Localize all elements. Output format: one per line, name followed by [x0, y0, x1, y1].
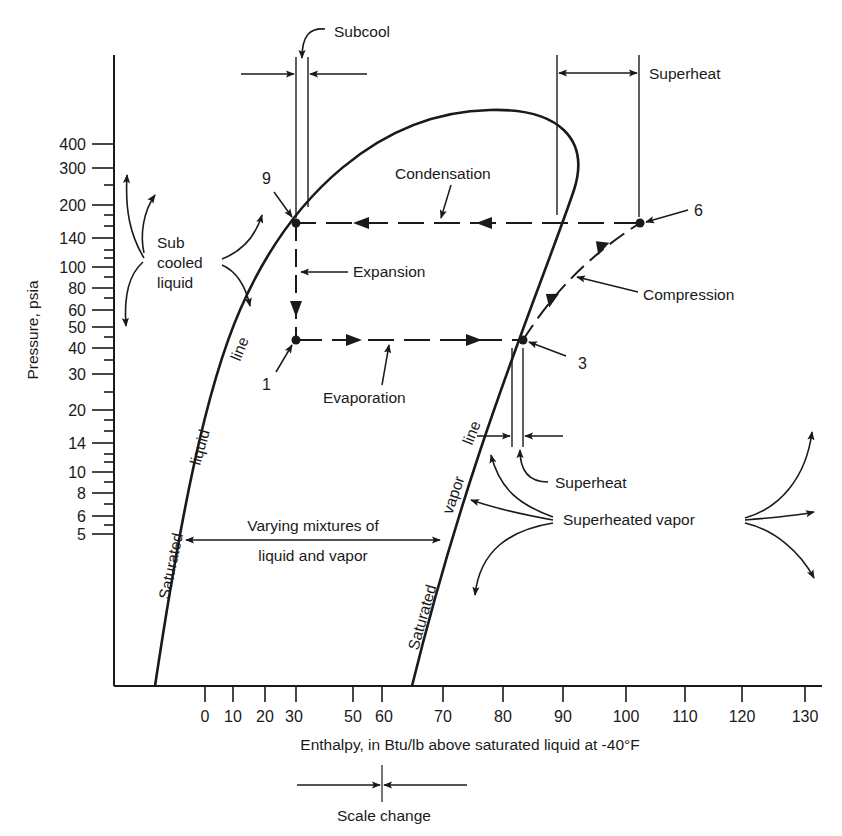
mixture-label-line2: liquid and vapor [258, 547, 367, 564]
y-tick: 6 [77, 508, 86, 525]
superheated-vapor-annotation: Superheated vapor [471, 432, 814, 595]
x-tick: 130 [792, 708, 819, 725]
x-tick: 110 [672, 708, 698, 725]
mixture-annotation: Varying mixtures of liquid and vapor [186, 517, 440, 564]
y-axis-tick-labels: 400 300 200 140 100 80 60 50 40 30 20 14… [59, 136, 86, 543]
y-tick: 20 [68, 402, 86, 419]
scale-change-marker: Scale change [297, 765, 467, 824]
y-tick: 14 [68, 435, 86, 452]
subcool-label: Subcool [334, 23, 390, 40]
y-tick: 300 [59, 160, 86, 177]
y-tick: 5 [77, 526, 86, 543]
superheat-bottom-label: Superheat [555, 474, 627, 491]
x-tick: 100 [613, 708, 640, 725]
point-1-marker [292, 336, 301, 345]
point-6-marker [636, 219, 645, 228]
x-tick: 0 [201, 708, 210, 725]
vapor-label: vapor [439, 474, 468, 516]
subcool-annotation: Subcool [241, 23, 390, 218]
y-tick: 140 [59, 230, 86, 247]
x-tick: 10 [224, 708, 242, 725]
superheat-top-label: Superheat [649, 65, 721, 82]
point-6-label: 6 [694, 202, 703, 219]
line-label: line [227, 334, 252, 363]
process-labels: Condensation Expansion Evaporation Compr… [301, 165, 734, 406]
superheated-vapor-label: Superheated vapor [563, 511, 695, 528]
point-9-marker [292, 219, 301, 228]
y-tick: 60 [68, 302, 86, 319]
subcooled-label-line3: liquid [157, 274, 193, 291]
x-axis-ticks [205, 686, 805, 702]
x-tick: 50 [344, 708, 362, 725]
x-tick: 20 [256, 708, 274, 725]
x-tick: 60 [375, 708, 393, 725]
x-tick: 80 [494, 708, 512, 725]
y-tick: 50 [68, 319, 86, 336]
point-9-label: 9 [262, 170, 271, 187]
x-axis-tick-labels: 0 10 20 30 50 60 70 80 90 100 110 120 13… [201, 708, 819, 725]
superheat-top-annotation: Superheat [557, 55, 721, 217]
y-tick: 40 [68, 340, 86, 357]
cycle-points: 9 1 3 6 [262, 170, 703, 393]
vapor-line-label: line [459, 418, 484, 447]
saturated-liquid-label: Saturated [155, 531, 186, 600]
superheat-bottom-annotation: Superheat [477, 348, 627, 491]
y-tick: 400 [59, 136, 86, 153]
x-axis-label: Enthalpy, in Btu/lb above saturated liqu… [300, 736, 639, 753]
point-1-label: 1 [262, 376, 271, 393]
y-tick: 8 [77, 485, 86, 502]
mixture-label-line1: Varying mixtures of [247, 517, 379, 534]
expansion-label: Expansion [353, 263, 425, 280]
y-tick: 30 [68, 366, 86, 383]
x-tick: 120 [729, 708, 756, 725]
liquid-label: liquid [187, 427, 213, 466]
y-tick: 80 [68, 280, 86, 297]
y-axis-label: Pressure, psia [24, 280, 41, 379]
y-tick: 10 [68, 464, 86, 481]
subcooled-label-line2: cooled [157, 254, 203, 271]
cycle-path [290, 217, 640, 346]
scale-change-label: Scale change [337, 807, 431, 824]
ph-diagram: 400 300 200 140 100 80 60 50 40 30 20 14… [0, 0, 842, 836]
saturated-vapor-label: Saturated [405, 583, 440, 652]
x-tick: 70 [434, 708, 452, 725]
condensation-label: Condensation [395, 165, 491, 182]
evaporation-label: Evaporation [323, 389, 406, 406]
y-axis-ticks [92, 144, 114, 534]
x-tick: 90 [554, 708, 572, 725]
y-tick: 200 [59, 197, 86, 214]
point-3-label: 3 [578, 355, 587, 372]
point-3-marker [519, 336, 528, 345]
compression-label: Compression [643, 286, 734, 303]
subcooled-label-line1: Sub [157, 234, 185, 251]
y-tick: 100 [59, 259, 86, 276]
x-tick: 30 [285, 708, 303, 725]
